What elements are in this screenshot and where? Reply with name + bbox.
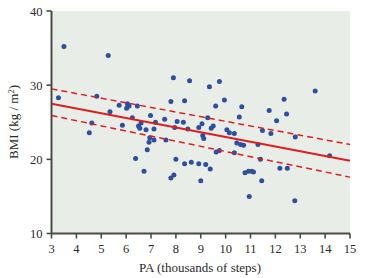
data-point <box>251 169 256 174</box>
data-point <box>171 75 176 80</box>
scatter-plot-figure: 3456789101112131415 10203040 PA (thousan… <box>0 0 367 278</box>
data-point <box>285 166 290 171</box>
data-point <box>189 160 194 165</box>
data-point <box>151 126 156 131</box>
plot-canvas: 3456789101112131415 10203040 PA (thousan… <box>0 0 367 278</box>
x-axis-tick-label: 13 <box>294 242 307 256</box>
data-point <box>313 89 318 94</box>
data-point <box>196 161 201 166</box>
data-point <box>217 79 222 84</box>
data-point <box>282 97 287 102</box>
y-axis-title-main: BMI (kg / m <box>6 94 21 159</box>
data-point <box>117 103 122 108</box>
data-point <box>243 170 248 175</box>
data-point <box>222 98 227 103</box>
x-axis-tick-label: 3 <box>48 242 54 256</box>
data-point <box>181 120 186 125</box>
y-axis-ticks: 10203040 <box>30 5 52 242</box>
x-axis-ticks: 3456789101112131415 <box>48 234 356 256</box>
data-point <box>144 127 149 132</box>
data-point <box>106 53 111 58</box>
data-point <box>87 130 92 135</box>
data-point <box>209 126 214 131</box>
data-point <box>227 130 232 135</box>
data-point <box>168 99 173 104</box>
data-point <box>232 131 237 136</box>
x-axis-tick-label: 5 <box>98 242 104 256</box>
x-axis-tick-label: 11 <box>244 242 256 256</box>
data-point <box>124 106 129 111</box>
y-axis-tick-label: 20 <box>30 153 43 167</box>
y-axis-title: BMI (kg / m2) <box>6 85 21 159</box>
data-point <box>148 113 153 118</box>
data-point <box>133 156 138 161</box>
data-point <box>196 125 201 130</box>
x-axis-title: PA (thousands of steps) <box>139 260 261 275</box>
x-axis-tick-label: 6 <box>123 242 129 256</box>
data-point <box>162 117 167 122</box>
data-point <box>247 194 252 199</box>
data-point <box>293 135 298 140</box>
data-point <box>213 103 218 108</box>
data-point <box>182 161 187 166</box>
data-point <box>56 95 61 100</box>
y-axis-title-paren: ) <box>6 85 21 89</box>
x-axis-tick-label: 8 <box>173 242 179 256</box>
x-axis-tick-label: 10 <box>219 242 232 256</box>
data-point <box>187 78 192 83</box>
data-point <box>214 149 219 154</box>
x-axis-tick-label: 15 <box>344 242 357 256</box>
data-point <box>207 84 212 89</box>
data-point <box>267 108 272 113</box>
data-point <box>173 157 178 162</box>
data-point <box>175 119 180 124</box>
data-point <box>239 104 244 109</box>
data-point <box>145 147 150 152</box>
data-point <box>147 140 152 145</box>
data-point <box>151 138 156 143</box>
data-point <box>142 169 147 174</box>
data-point <box>201 136 206 141</box>
data-point <box>237 115 242 120</box>
x-axis-tick-label: 12 <box>269 242 282 256</box>
y-axis-title-text: BMI (kg / m2) <box>6 85 21 159</box>
data-point <box>182 98 187 103</box>
x-axis-tick-label: 14 <box>319 242 332 256</box>
y-axis-tick-label: 10 <box>30 227 43 241</box>
data-point <box>168 175 173 180</box>
data-point <box>259 178 264 183</box>
data-point <box>208 166 213 171</box>
x-axis-tick-label: 7 <box>148 242 154 256</box>
data-point <box>203 162 208 167</box>
data-point <box>268 131 273 136</box>
data-point <box>137 126 142 131</box>
data-point <box>292 198 297 203</box>
data-point <box>120 123 125 128</box>
data-point <box>198 178 203 183</box>
data-point <box>284 112 289 117</box>
data-point <box>277 166 282 171</box>
y-axis-tick-label: 40 <box>30 5 43 19</box>
data-point <box>61 44 66 49</box>
y-axis-tick-label: 30 <box>30 79 43 93</box>
data-point <box>241 143 246 148</box>
x-axis-tick-label: 4 <box>73 242 80 256</box>
data-point <box>274 118 279 123</box>
x-axis-tick-label: 9 <box>198 242 204 256</box>
